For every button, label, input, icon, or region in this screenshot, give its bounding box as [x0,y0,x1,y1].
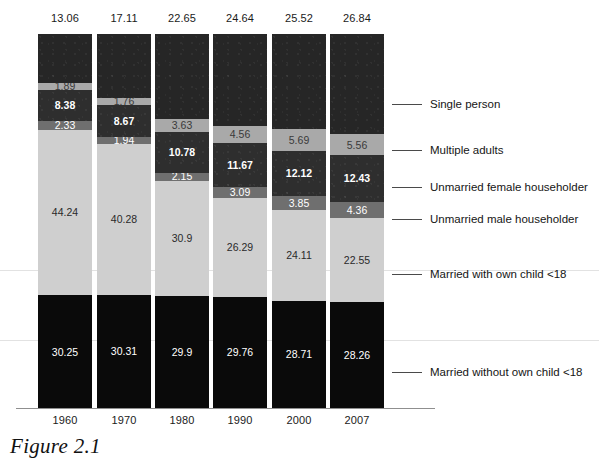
bar-segment-value: 5.56 [347,140,367,151]
bar-segment-withkid: 24.11 [272,210,326,300]
bar-segment-female: 8.67 [97,105,151,137]
bar-segment-value: 22.55 [344,255,370,266]
bar-segment-male: 4.36 [330,202,384,218]
legend-label: Single person [430,98,500,110]
bar-segment-male: 2.15 [155,173,209,181]
bar-segment-value: 30.9 [172,233,192,244]
bar-segment-value: 30.25 [52,347,78,358]
bar-segment-value: 3.63 [172,120,192,131]
bar-segment-value: 24.11 [286,250,312,261]
bar-segment-value: 11.67 [227,160,253,171]
legend-item: Unmarried male householder [392,212,578,226]
legend-item: Married with own child <18 [392,267,566,281]
bar-segment-female: 12.43 [330,155,384,201]
legend-leader-line [392,187,422,188]
x-axis-tick-label: 1960 [38,414,92,426]
bar-segment-value: 1.89 [55,83,75,90]
bar-segment-nokid: 29.76 [213,297,267,408]
bar-segment-withkid: 40.28 [97,144,151,295]
bar-segment-value: 1.76 [114,98,134,105]
bar-segment-value: 29.76 [227,347,253,358]
bar-segment-value: 28.26 [344,350,370,361]
bar-segment-single [213,34,267,126]
bar-segment-female: 10.78 [155,132,209,172]
x-axis-tick-label: 1990 [213,414,267,426]
bar-segment-value: 40.28 [111,214,137,225]
bar-segment-multi: 4.56 [213,126,267,143]
bar-segment-single [97,34,151,98]
legend-leader-line [392,219,422,220]
x-axis-tick-label: 1980 [155,414,209,426]
x-axis-tick-label: 2007 [330,414,384,426]
bar-segment-value: 8.38 [55,100,75,111]
bar-segment-value: 44.24 [52,207,78,218]
bar-segment-value: 5.69 [289,135,309,146]
bar-segment-value: 29.9 [172,347,192,358]
figure-caption: Figure 2.1 [10,434,101,459]
bar-segment-nokid: 30.31 [97,295,151,408]
legend-leader-line [392,372,422,373]
bar-segment-value: 26.29 [227,242,253,253]
bar-segment-nokid: 30.25 [38,295,92,408]
bar-segment-value: 30.31 [111,346,137,357]
legend-leader-line [392,274,422,275]
legend-item: Single person [392,97,500,111]
bar-segment-value: 12.43 [344,173,370,184]
legend-label: Married without own child <18 [430,366,582,378]
bar-segment-withkid: 44.24 [38,130,92,295]
bar-segment-withkid: 30.9 [155,181,209,297]
bar-segment-value: 10.78 [169,147,195,158]
bar-segment-female: 8.38 [38,90,92,121]
bar-segment-value: 12.12 [286,168,312,179]
legend-item: Unmarried female householder [392,180,588,194]
bar-segment-value: 8.67 [114,116,134,127]
bar-segment-value: 2.33 [55,121,75,130]
bar-segment-single [272,34,326,129]
bar-stack: 1.898.382.3344.2430.25 [38,34,92,408]
bar-total-label: 24.64 [213,12,267,24]
legend-leader-line [392,104,422,105]
bar-segment-single [155,34,209,119]
x-axis-tick-label: 1970 [97,414,151,426]
bar-total-label: 25.52 [272,12,326,24]
legend-item: Married without own child <18 [392,365,582,379]
bar-segment-female: 11.67 [213,143,267,187]
bar-total-label: 22.65 [155,12,209,24]
bar-segment-male: 3.85 [272,196,326,210]
legend-item: Multiple adults [392,143,504,157]
bar-segment-male: 1.94 [97,137,151,144]
x-axis-tick-label: 2000 [272,414,326,426]
bar-segment-value: 4.56 [230,129,250,140]
bar-segment-nokid: 29.9 [155,296,209,408]
bar-segment-value: 1.94 [114,137,134,144]
bar-stack: 4.5611.673.0926.2929.76 [213,34,267,408]
x-axis-line [16,408,435,409]
bar-total-label: 26.84 [330,12,384,24]
bar-total-label: 13.06 [38,12,92,24]
bar-segment-value: 3.09 [230,187,250,198]
legend-label: Unmarried female householder [430,181,588,193]
bar-stack: 5.6912.123.8524.1128.71 [272,34,326,408]
bar-segment-multi: 3.63 [155,119,209,133]
bar-segment-withkid: 22.55 [330,218,384,302]
legend-label: Unmarried male householder [430,213,578,225]
bar-segment-nokid: 28.26 [330,302,384,408]
bar-segment-multi: 1.76 [97,98,151,105]
figure-container: 13.061.898.382.3344.2430.25196017.111.76… [0,0,599,470]
bar-segment-value: 4.36 [347,205,367,216]
legend-label: Married with own child <18 [430,268,566,280]
bar-segment-nokid: 28.71 [272,301,326,408]
bar-segment-value: 28.71 [286,349,312,360]
bar-segment-single [330,34,384,134]
bar-segment-male: 3.09 [213,187,267,199]
bar-segment-single [38,34,92,83]
bar-segment-multi: 1.89 [38,83,92,90]
bar-segment-value: 3.85 [289,198,309,209]
bar-segment-multi: 5.56 [330,134,384,155]
bar-stack: 1.768.671.9440.2830.31 [97,34,151,408]
bar-segment-value: 2.15 [172,173,192,181]
bar-segment-male: 2.33 [38,121,92,130]
bar-segment-withkid: 26.29 [213,198,267,296]
bar-stack: 3.6310.782.1530.929.9 [155,34,209,408]
bar-segment-female: 12.12 [272,151,326,196]
